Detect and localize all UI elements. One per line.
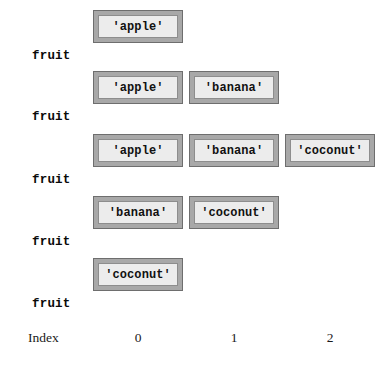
queue-cell: 'coconut' [93,258,183,291]
queue-cell-inner: 'apple' [98,76,178,99]
queue-cell: 'banana' [93,196,183,229]
queue-cell-inner: 'coconut' [194,201,274,224]
queue-cell: 'apple' [93,10,183,43]
queue-cell-inner: 'coconut' [290,139,370,162]
index-axis-row: Index 012 [0,325,391,355]
queue-cell-inner: 'banana' [98,201,178,224]
queue-row: fruitfront/rear'coconut' [0,258,391,319]
queue-row: fruitfront/rear'apple' [0,10,391,71]
queue-cell-value: 'coconut' [201,206,267,220]
queue-cell-inner: 'banana' [194,139,274,162]
queue-row: fruitfrontrear'banana''coconut' [0,196,391,257]
queue-cell-value: 'banana' [205,81,263,95]
variable-name-label: fruit [32,297,71,311]
queue-cell-value: 'coconut' [297,144,363,158]
index-tick: 0 [93,330,183,346]
queue-cell-value: 'banana' [109,206,167,220]
queue-cell-value: 'apple' [112,144,163,158]
variable-name-label: fruit [32,235,71,249]
queue-cell: 'coconut' [285,134,375,167]
queue-cell-inner: 'apple' [98,139,178,162]
index-axis-label: Index [28,330,59,346]
queue-row: fruitfrontrear'apple''banana' [0,71,391,132]
queue-cell: 'coconut' [189,196,279,229]
queue-cell-inner: 'coconut' [98,263,178,286]
queue-cell-value: 'apple' [112,20,163,34]
queue-cell-inner: 'apple' [98,15,178,38]
queue-cell-inner: 'banana' [194,76,274,99]
index-tick: 1 [189,330,279,346]
queue-cell-value: 'coconut' [105,268,171,282]
queue-row: fruitfrontrear'apple''banana''coconut' [0,134,391,195]
queue-cell: 'banana' [189,71,279,104]
queue-cell: 'apple' [93,134,183,167]
variable-name-label: fruit [32,110,71,124]
index-tick: 2 [285,330,375,346]
queue-cell: 'banana' [189,134,279,167]
queue-cell-value: 'apple' [112,81,163,95]
variable-name-label: fruit [32,173,71,187]
queue-cell: 'apple' [93,71,183,104]
variable-name-label: fruit [32,49,71,63]
queue-cell-value: 'banana' [205,144,263,158]
queue-diagram: fruitfront/rear'apple'fruitfrontrear'app… [0,0,391,370]
